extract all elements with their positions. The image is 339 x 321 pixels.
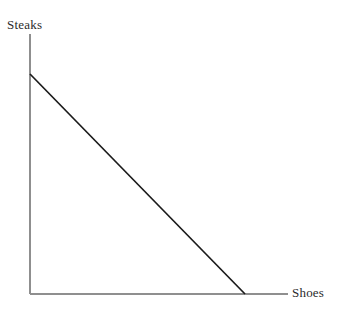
x-axis-label: Shoes xyxy=(292,286,324,299)
budget-constraint-line xyxy=(30,74,245,294)
chart-plot-area xyxy=(0,0,339,321)
y-axis-label: Steaks xyxy=(7,18,42,31)
chart-figure: Steaks Shoes xyxy=(0,0,339,321)
